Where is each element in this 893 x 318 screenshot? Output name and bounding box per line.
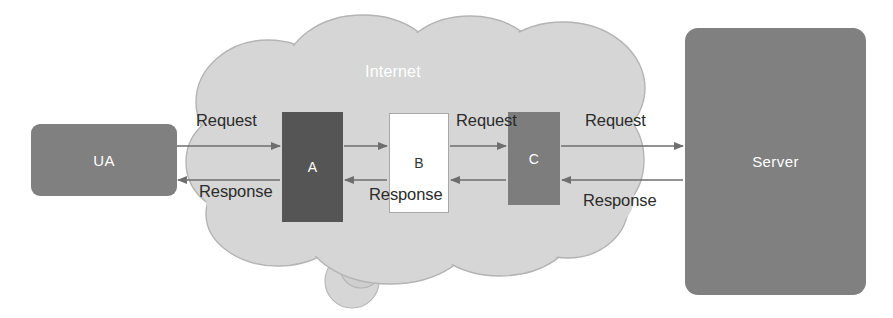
node-c-label: C [529, 151, 540, 167]
edge-label-response-1: Response [199, 182, 273, 201]
diagram-canvas: Internet UA A B C Server Request Request… [0, 0, 893, 318]
node-server-label: Server [752, 153, 799, 170]
edge-label-response-3: Response [583, 191, 657, 210]
edge-label-request-2: Request [456, 111, 517, 130]
cloud-label-internet: Internet [365, 63, 421, 81]
edge-label-request-3: Request [585, 111, 646, 130]
edge-label-response-2: Response [369, 185, 443, 204]
node-ua-label: UA [93, 152, 115, 169]
node-a-label: A [308, 159, 318, 175]
node-ua[interactable]: UA [31, 124, 177, 196]
node-a[interactable]: A [282, 112, 343, 222]
node-server[interactable]: Server [685, 28, 866, 295]
edge-label-request-1: Request [196, 111, 257, 130]
node-b-label: B [414, 155, 424, 171]
